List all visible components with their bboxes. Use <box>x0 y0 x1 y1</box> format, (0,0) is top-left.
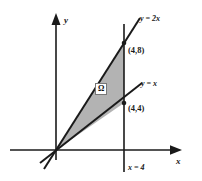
y-axis-arrowhead <box>52 13 61 25</box>
y-axis-label: y <box>64 16 68 25</box>
math-figure: y x y = 2x y = x x = 4 (4,8) (4,4) Ω <box>0 0 202 181</box>
label-point-4-8: (4,8) <box>128 46 144 55</box>
label-line-y-equals-2x: y = 2x <box>140 15 160 23</box>
label-line-x-equals-4: x = 4 <box>128 164 145 172</box>
point-marker-4-8 <box>122 41 127 46</box>
x-axis-label: x <box>176 157 181 166</box>
label-point-4-4: (4,4) <box>128 104 144 113</box>
line-y-equals-2x <box>44 18 140 169</box>
x-axis-arrowhead <box>170 145 182 155</box>
label-region-omega: Ω <box>95 83 107 95</box>
point-marker-4-4 <box>122 101 127 106</box>
label-line-y-equals-x: y = x <box>141 80 157 88</box>
